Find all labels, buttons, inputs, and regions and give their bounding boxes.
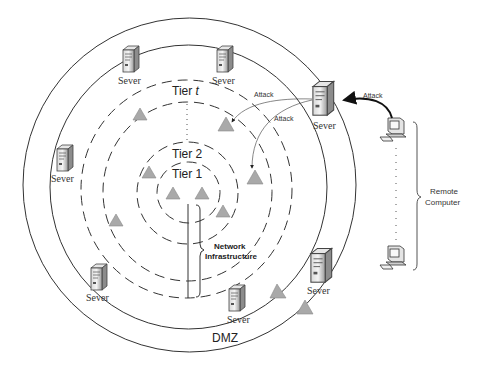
attack-label-remote: Attack (363, 92, 383, 99)
remote-computer-label: Remote Computer (425, 187, 460, 207)
tier-1-label: Tier 1 (172, 167, 203, 181)
server-bottom-center: Sever (227, 285, 250, 325)
server-icon (57, 145, 73, 171)
node-triangle-icon (216, 205, 230, 217)
network-nodes (109, 108, 313, 314)
node-triangle-icon (166, 187, 180, 199)
node-triangle-icon (297, 300, 313, 314)
attack-label-upper: Attack (254, 91, 274, 98)
server-label: Sever (212, 75, 235, 86)
server-icon (217, 46, 233, 72)
remote-computer-top (380, 118, 406, 141)
computer-icon (380, 246, 406, 269)
node-triangle-icon (195, 187, 209, 199)
server-top-left: Sever (118, 46, 141, 86)
server-label: Sever (86, 292, 109, 303)
attack-arrow-remote (344, 98, 392, 118)
attack-arrow-lower (252, 100, 312, 168)
server-bottom-right: Sever (307, 248, 332, 296)
server-label: Sever (118, 75, 141, 86)
server-icon (123, 46, 139, 72)
remote-computer-brace (413, 122, 421, 270)
server-icon (313, 81, 334, 115)
node-triangle-icon (109, 214, 123, 226)
defense-in-depth-diagram: Tier t Tier 2 Tier 1 DMZ Network Infrast… (0, 0, 480, 369)
server-label: Sever (313, 120, 336, 131)
tier-t-label: Tier t (172, 84, 200, 98)
server-icon (91, 264, 107, 290)
network-infrastructure-brace (196, 205, 204, 297)
network-infrastructure-label: Network Infrastructure (205, 242, 258, 261)
tier-2-label: Tier 2 (172, 147, 203, 161)
server-dmz-gateway: Sever (313, 81, 337, 131)
computer-icon (380, 118, 406, 141)
dmz-label: DMZ (212, 331, 238, 345)
node-triangle-icon (270, 284, 286, 298)
tier-t-outer-ring (81, 80, 292, 298)
server-label: Sever (307, 285, 330, 296)
server-label: Sever (51, 173, 74, 184)
server-label: Sever (227, 314, 250, 325)
server-icon (311, 248, 332, 282)
node-triangle-icon (133, 108, 147, 120)
server-icon (229, 285, 245, 311)
node-triangle-icon (247, 170, 263, 184)
remote-computer-bottom (380, 246, 406, 269)
node-triangle-icon (218, 117, 234, 131)
server-top-right: Sever (212, 46, 235, 86)
attack-label-lower: Attack (274, 115, 294, 122)
tier-rings (81, 80, 292, 298)
server-bottom-left: Sever (86, 264, 109, 303)
